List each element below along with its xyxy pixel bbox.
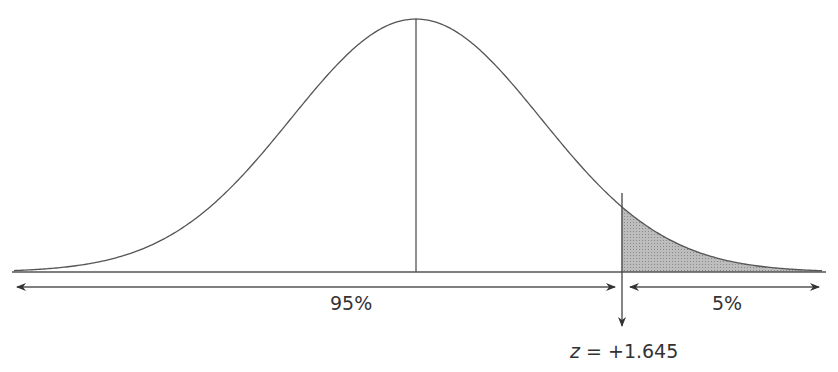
normal-curve [14,19,822,271]
left-region-label: 95% [330,292,372,314]
shaded-tail-region [622,207,822,272]
critical-value-label: z = +1.645 [569,340,678,362]
right-region-label: 5% [712,292,742,314]
normal-distribution-chart: 95% 5% z = +1.645 [0,0,838,372]
